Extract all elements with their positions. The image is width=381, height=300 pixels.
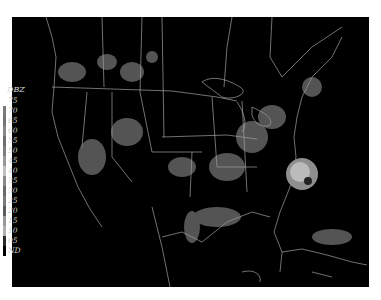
legend-label: 35 bbox=[8, 176, 18, 186]
legend-entry: 05 bbox=[3, 236, 33, 246]
legend-label: 05 bbox=[8, 236, 18, 246]
legend-swatch bbox=[3, 206, 6, 216]
legend-swatch bbox=[3, 246, 6, 256]
legend-swatch bbox=[3, 196, 6, 206]
legend-entry: 55 bbox=[3, 136, 33, 146]
legend-label: 30 bbox=[8, 186, 18, 196]
legend-entry: 10 bbox=[3, 226, 33, 236]
legend-entry: 65 bbox=[3, 116, 33, 126]
legend-entry: 15 bbox=[3, 216, 33, 226]
legend-label: 10 bbox=[8, 226, 18, 236]
hurricane-echo bbox=[286, 158, 318, 190]
legend-entry: 25 bbox=[3, 196, 33, 206]
mexico-coast bbox=[152, 207, 170, 287]
yucatan bbox=[242, 271, 260, 282]
map-outlines bbox=[12, 17, 369, 287]
legend-entry: 40 bbox=[3, 166, 33, 176]
legend-swatch bbox=[3, 216, 6, 226]
legend-entry: 75 bbox=[3, 96, 33, 106]
west-coastline bbox=[46, 17, 102, 227]
legend-label: 45 bbox=[8, 156, 18, 166]
legend-title: DBZ bbox=[7, 85, 25, 94]
legend-swatch bbox=[3, 136, 6, 146]
radar-map bbox=[12, 17, 369, 287]
legend-swatch bbox=[3, 116, 6, 126]
legend-swatch bbox=[3, 186, 6, 196]
legend-swatch bbox=[3, 156, 6, 166]
legend-swatch bbox=[3, 146, 6, 156]
legend-entry: ND bbox=[3, 246, 33, 256]
legend-label: 25 bbox=[8, 196, 18, 206]
legend-swatch bbox=[3, 226, 6, 236]
legend-entry: 45 bbox=[3, 156, 33, 166]
legend-label: 20 bbox=[8, 206, 18, 216]
legend-swatch bbox=[3, 106, 6, 116]
legend-entry: 20 bbox=[3, 206, 33, 216]
legend-swatch bbox=[3, 236, 6, 246]
legend-swatch bbox=[3, 96, 6, 106]
legend-entry: 35 bbox=[3, 176, 33, 186]
canada-border bbox=[52, 87, 237, 101]
legend-label: 60 bbox=[8, 126, 18, 136]
legend-label: 55 bbox=[8, 136, 18, 146]
legend-label: 70 bbox=[8, 106, 18, 116]
legend-entry: 70 bbox=[3, 106, 33, 116]
legend-entry: 50 bbox=[3, 146, 33, 156]
legend-swatch bbox=[3, 176, 6, 186]
caribbean-islands bbox=[282, 249, 367, 277]
legend-swatch bbox=[3, 126, 6, 136]
legend-label: 65 bbox=[8, 116, 18, 126]
legend-label: 50 bbox=[8, 146, 18, 156]
legend-swatch bbox=[3, 166, 6, 176]
legend-entry: 60 bbox=[3, 126, 33, 136]
legend-label: ND bbox=[8, 246, 21, 256]
canada-lines bbox=[224, 17, 342, 87]
legend-label: 75 bbox=[8, 96, 18, 106]
legend-entry: 30 bbox=[3, 186, 33, 196]
legend-label: 15 bbox=[8, 216, 18, 226]
legend-label: 40 bbox=[8, 166, 18, 176]
